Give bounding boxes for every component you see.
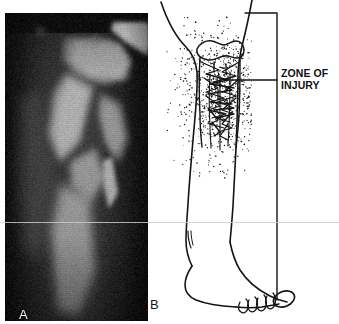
leg-medial-contour	[230, 0, 252, 242]
zone-of-injury-label: ZONE OF INJURY	[281, 68, 328, 91]
figure-root: A	[0, 0, 339, 324]
malleolus-marking-2	[191, 231, 193, 245]
toe-4	[248, 297, 258, 312]
zone-bracket	[245, 13, 277, 300]
leg-line-drawing	[148, 0, 339, 324]
zone-label-line-1: ZONE OF	[281, 68, 328, 80]
toe-5	[239, 299, 249, 313]
malleolus-marking	[188, 231, 191, 248]
radiograph-panel-a: A	[5, 13, 148, 321]
panel-b-label: B	[150, 298, 159, 311]
toe-3	[257, 295, 267, 311]
leg-lateral-contour	[161, 2, 197, 266]
panel-a-label: A	[19, 308, 28, 321]
heel-contour	[185, 266, 236, 307]
zone-label-line-2: INJURY	[281, 80, 328, 92]
tibial-plateau	[197, 41, 244, 60]
radiograph-image	[5, 13, 148, 321]
